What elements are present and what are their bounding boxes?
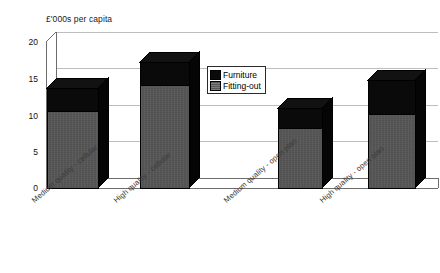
- bar-side-face: [189, 52, 199, 188]
- legend-label-fitting-out: Fitting-out: [223, 81, 261, 91]
- bar-segment-furniture: [368, 80, 415, 114]
- bar-segment-furniture: [140, 62, 189, 85]
- chart-canvas: [0, 0, 440, 273]
- y-tick-0: 0: [20, 183, 38, 193]
- y-tick-10: 10: [20, 111, 38, 121]
- bar-group-medium-quality-cellular: [47, 78, 108, 188]
- bar-side-face: [322, 98, 332, 188]
- y-tick-20: 20: [20, 37, 38, 47]
- legend-label-furniture: Furniture: [223, 70, 257, 80]
- chart-legend: Furniture Fitting-out: [207, 66, 266, 94]
- y-tick-5: 5: [20, 147, 38, 157]
- bar-segment-furniture: [278, 108, 322, 128]
- bar-texture-fitting-out: [279, 129, 321, 187]
- bar-group-high-quality-open-plan: [368, 70, 425, 188]
- bar-chart: £'000s per capita: [0, 0, 440, 273]
- y-tick-15: 15: [20, 74, 38, 84]
- bar-side-face: [415, 70, 425, 188]
- legend-swatch-fitting-out-icon: [210, 81, 221, 91]
- legend-item-furniture: Furniture: [210, 69, 261, 80]
- legend-swatch-furniture-icon: [210, 70, 221, 80]
- bar-side-face: [98, 78, 108, 188]
- legend-item-fitting-out: Fitting-out: [210, 80, 261, 91]
- bar-segment-furniture: [47, 88, 98, 111]
